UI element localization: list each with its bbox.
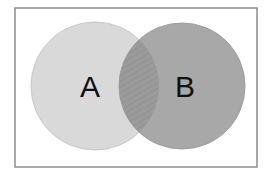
venn-diagram: A B (0, 0, 269, 179)
set-b-label: B (175, 70, 195, 103)
set-a-label: A (80, 70, 100, 103)
